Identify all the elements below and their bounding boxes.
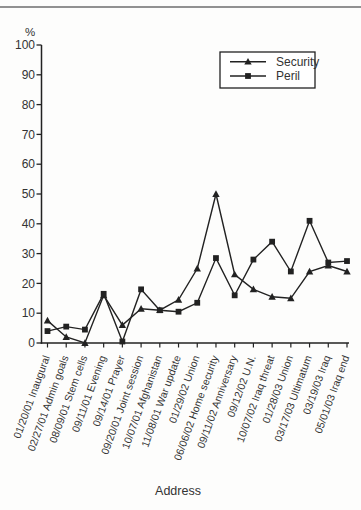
series-peril-square-marker: [269, 239, 275, 245]
legend-label-peril: Peril: [276, 69, 300, 83]
y-tick-label: 70: [22, 128, 36, 142]
series-peril-square-marker: [288, 269, 294, 275]
series-peril-square-marker: [119, 339, 125, 345]
axes: [41, 45, 349, 344]
y-tick-label: 0: [28, 336, 35, 350]
series-peril-square-marker: [101, 291, 107, 297]
series-peril-square-marker: [45, 328, 51, 334]
series-peril-square-marker: [138, 286, 144, 292]
y-tick-label: 30: [22, 247, 36, 261]
y-axis-ticks: 0102030405060708090100: [15, 38, 42, 350]
series-security-triangle-marker: [175, 296, 182, 303]
y-tick-label: 90: [22, 68, 36, 82]
line-chart: % 0102030405060708090100 01/20/01 Inaugu…: [0, 0, 361, 510]
series-peril-square-marker: [194, 300, 200, 306]
legend: SecurityPeril: [220, 52, 319, 88]
y-tick-label: 40: [22, 217, 36, 231]
y-tick-label: 60: [22, 157, 36, 171]
figure-page: % 0102030405060708090100 01/20/01 Inaugu…: [0, 0, 361, 510]
y-tick-label: 100: [15, 38, 35, 52]
y-tick-label: 10: [22, 306, 36, 320]
legend-label-security: Security: [276, 55, 319, 69]
legend-key-square-marker: [245, 73, 251, 79]
series-peril-square-marker: [344, 258, 350, 264]
series-peril-square-marker: [82, 327, 88, 333]
y-tick-label: 80: [22, 98, 36, 112]
data-series: [44, 190, 351, 346]
y-tick-label: 20: [22, 277, 36, 291]
series-security-triangle-marker: [194, 265, 201, 272]
series-peril-square-marker: [325, 260, 331, 266]
series-security-triangle-marker: [44, 317, 51, 324]
series-peril-square-marker: [232, 292, 238, 298]
series-peril-square-marker: [213, 255, 219, 261]
series-security-triangle-marker: [212, 190, 219, 197]
series-peril-square-marker: [63, 324, 69, 330]
y-tick-label: 50: [22, 187, 36, 201]
series-peril-square-marker: [157, 307, 163, 313]
series-peril-square-marker: [251, 257, 257, 263]
y-axis-unit-label: %: [25, 26, 35, 38]
x-axis-ticks: 01/20/01 Inaugural02/27/01 Admin goals08…: [11, 343, 352, 462]
series-peril-square-marker: [176, 309, 182, 315]
series-peril-square-marker: [307, 218, 313, 224]
series-security-triangle-marker: [231, 271, 238, 278]
x-axis-title: Address: [155, 484, 201, 498]
